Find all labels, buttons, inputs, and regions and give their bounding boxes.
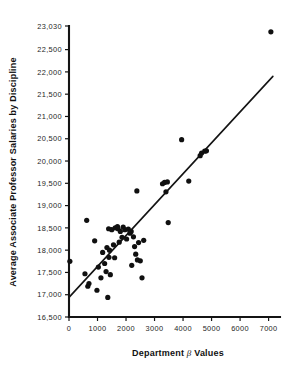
data-point — [112, 255, 117, 260]
data-point — [86, 281, 91, 286]
scatter-plot-figure: 16,50017,00017,50018,00018,50019,00019,5… — [0, 0, 296, 375]
data-point — [129, 263, 134, 268]
data-point — [117, 240, 122, 245]
y-tick-label: 18,500 — [37, 224, 62, 233]
y-tick-label: 19,000 — [37, 201, 62, 210]
data-point — [100, 250, 105, 255]
x-tick-label: 2000 — [117, 324, 135, 333]
data-point — [132, 244, 137, 249]
data-point — [102, 261, 107, 266]
data-point — [108, 272, 113, 277]
y-tick-label: 21,500 — [37, 90, 62, 99]
y-axis-tick-labels: 16,50017,00017,50018,00018,50019,00019,5… — [37, 22, 62, 322]
data-point — [204, 148, 209, 153]
data-point — [106, 255, 111, 260]
data-point — [138, 258, 143, 263]
data-point — [133, 252, 138, 257]
x-tick-label: 7000 — [260, 324, 278, 333]
data-point — [105, 295, 110, 300]
data-point — [82, 271, 87, 276]
data-point — [107, 248, 112, 253]
data-point — [141, 238, 146, 243]
y-tick-label: 17,500 — [37, 268, 62, 277]
x-tick-label: 3000 — [146, 324, 164, 333]
x-tick-label: 5000 — [203, 324, 221, 333]
y-tick-label: 22,000 — [37, 68, 62, 77]
y-tick-label: 16,500 — [37, 313, 62, 322]
y-tick-label: 17,000 — [37, 290, 62, 299]
data-point — [131, 234, 136, 239]
data-point — [134, 188, 139, 193]
data-point — [165, 179, 170, 184]
data-point — [166, 220, 171, 225]
data-point — [163, 189, 168, 194]
x-tick-label: 6000 — [231, 324, 249, 333]
x-tick-label: 0 — [67, 324, 71, 333]
chart-canvas: 16,50017,00017,50018,00018,50019,00019,5… — [0, 0, 296, 375]
y-tick-label: 20,500 — [37, 134, 62, 143]
data-point — [119, 235, 124, 240]
data-point — [111, 242, 116, 247]
data-point — [186, 178, 191, 183]
x-tick-label: 1000 — [89, 324, 107, 333]
y-tick-label: 22,500 — [37, 45, 62, 54]
y-tick-label: 19,500 — [37, 179, 62, 188]
data-points-group — [67, 29, 273, 300]
y-axis-title: Average Associate Professor Salaries by … — [8, 57, 18, 286]
data-point — [124, 236, 129, 241]
beta-symbol: β — [186, 348, 192, 358]
data-point — [84, 218, 89, 223]
regression-trend-line — [69, 76, 273, 297]
data-point — [92, 238, 97, 243]
data-point — [67, 259, 72, 264]
data-point — [179, 137, 184, 142]
y-tick-label: 21,000 — [37, 112, 62, 121]
x-axis-tick-labels: 01000200030004000500060007000 — [67, 324, 278, 333]
data-point — [118, 229, 123, 234]
data-point — [96, 264, 101, 269]
y-tick-label: 18,000 — [37, 246, 62, 255]
x-axis-title: Department β Values — [132, 348, 224, 358]
y-tick-label: 20,000 — [37, 157, 62, 166]
data-point — [94, 288, 99, 293]
data-point — [139, 275, 144, 280]
data-point — [136, 240, 141, 245]
data-point — [103, 269, 108, 274]
data-point — [268, 29, 273, 34]
data-point — [129, 229, 134, 234]
x-tick-label: 4000 — [174, 324, 192, 333]
data-point — [98, 275, 103, 280]
y-tick-label: 23,030 — [37, 22, 62, 31]
